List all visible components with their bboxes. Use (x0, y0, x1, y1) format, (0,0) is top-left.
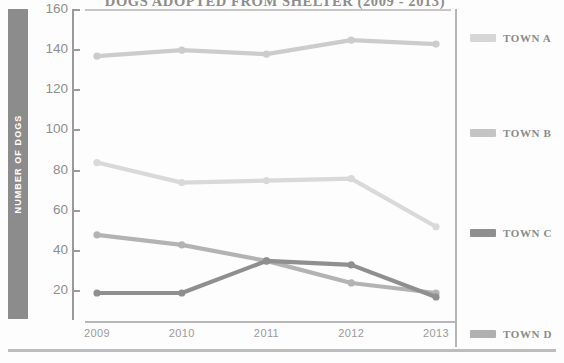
series-point (263, 177, 270, 184)
series-point (432, 293, 439, 300)
x-axis-tick-label: 2012 (316, 327, 386, 339)
series-point (93, 159, 100, 166)
series-point (93, 231, 100, 238)
legend-label: TOWN A (503, 32, 551, 44)
y-axis-tick-label: 20 (34, 282, 68, 297)
series-point (348, 37, 355, 44)
y-axis-tick-label: 160 (34, 1, 68, 16)
legend-swatch (470, 129, 496, 137)
chart-title: DOGS ADOPTED FROM SHELTER (2009 - 2013) (90, 0, 460, 9)
y-axis-tick (72, 9, 80, 11)
series-town-c (93, 257, 439, 300)
series-point (178, 289, 185, 296)
series-point (432, 41, 439, 48)
series-point (178, 241, 185, 248)
legend-divider (455, 9, 457, 347)
y-axis-tick-label: 100 (34, 121, 68, 136)
x-axis-tick-label: 2011 (232, 327, 302, 339)
series-line (97, 163, 436, 227)
y-axis-tick-label: 120 (34, 81, 68, 96)
series-line (97, 261, 436, 297)
series-point (93, 53, 100, 60)
legend-label: TOWN D (503, 328, 552, 340)
y-axis-tick (72, 89, 80, 91)
y-axis-tick-label: 40 (34, 242, 68, 257)
series-point (178, 47, 185, 54)
y-axis-spine (72, 10, 74, 320)
y-axis-tick-label: 140 (34, 41, 68, 56)
series-point (263, 257, 270, 264)
legend-item-town-d[interactable]: TOWN D (470, 328, 552, 340)
plot-top-rule (85, 9, 451, 11)
y-axis-tick (72, 49, 80, 51)
series-point (348, 279, 355, 286)
series-point (263, 51, 270, 58)
series-point (93, 289, 100, 296)
series-point (348, 261, 355, 268)
series-town-b (93, 159, 439, 230)
y-axis-tick (72, 170, 80, 172)
series-point (432, 289, 439, 296)
y-axis-tick (72, 210, 80, 212)
series-town-d (93, 231, 439, 296)
legend-swatch (470, 229, 496, 237)
plot-bottom-rule (85, 321, 455, 323)
series-town-a (93, 37, 439, 60)
series-point (432, 223, 439, 230)
chart-canvas: DOGS ADOPTED FROM SHELTER (2009 - 2013) … (0, 0, 564, 363)
series-point (348, 175, 355, 182)
chart-series-layer (0, 0, 564, 363)
x-axis-tick-label: 2010 (147, 327, 217, 339)
series-point (178, 179, 185, 186)
legend-swatch (470, 330, 496, 338)
series-line (97, 40, 436, 56)
legend-item-town-a[interactable]: TOWN A (470, 32, 551, 44)
series-line (97, 235, 436, 293)
y-axis-tick-label: 60 (34, 202, 68, 217)
y-axis-tick (72, 129, 80, 131)
x-axis-tick-label: 2013 (401, 327, 471, 339)
footer-rule (8, 349, 556, 352)
legend-swatch (470, 34, 496, 42)
y-axis-tick-label: 80 (34, 162, 68, 177)
x-axis-tick-label: 2009 (62, 327, 132, 339)
y-axis-title: NUMBER OF DOGS (8, 9, 28, 319)
legend-label: TOWN B (503, 127, 551, 139)
series-point (263, 257, 270, 264)
y-axis-tick (72, 290, 80, 292)
y-axis-tick (72, 250, 80, 252)
y-axis-title-label: NUMBER OF DOGS (13, 115, 23, 214)
legend-item-town-c[interactable]: TOWN C (470, 227, 552, 239)
legend-label: TOWN C (503, 227, 552, 239)
legend-item-town-b[interactable]: TOWN B (470, 127, 551, 139)
